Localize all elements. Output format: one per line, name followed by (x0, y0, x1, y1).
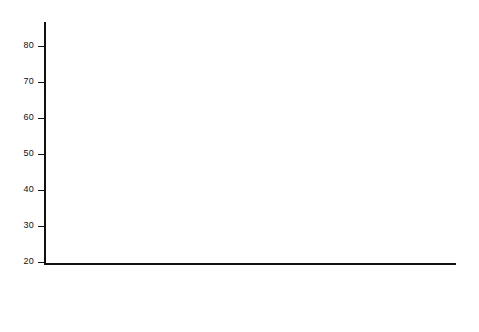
y-axis-tick: 40 (38, 190, 44, 191)
y-axis-tick-label: 60 (24, 112, 34, 123)
y-axis-tick: 50 (38, 154, 44, 155)
bar-chart-figure: 20304050607080 (0, 0, 479, 332)
x-axis-line (44, 263, 456, 265)
y-axis-tick: 70 (38, 82, 44, 83)
bar-series-container (46, 22, 456, 263)
y-axis-tick-label: 40 (24, 184, 34, 195)
y-axis-tick-label: 80 (24, 40, 34, 51)
y-axis-tick: 20 (38, 262, 44, 263)
y-axis-tick: 80 (38, 46, 44, 47)
y-axis-tick-label: 20 (24, 256, 34, 267)
y-axis-tick-label: 30 (24, 220, 34, 231)
y-axis-tick-label: 70 (24, 76, 34, 87)
plot-area: 20304050607080 (44, 22, 456, 265)
y-axis-tick-label: 50 (24, 148, 34, 159)
y-axis-tick: 60 (38, 118, 44, 119)
y-axis-tick: 30 (38, 226, 44, 227)
